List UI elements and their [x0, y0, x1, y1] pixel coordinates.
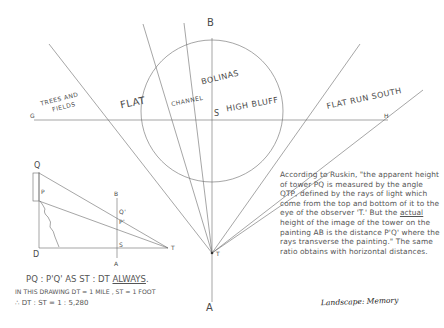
ruskin-note-emphasis: actual — [400, 208, 423, 217]
scale-statement: IN THIS DRAWING DT = 1 MILE , ST = 1 FOO… — [15, 288, 215, 295]
point-T-label: T — [216, 251, 220, 257]
ray-1 — [49, 44, 212, 253]
inset-S-label: S — [119, 242, 123, 248]
ratio-formula-emphasis: ALWAYS — [112, 274, 145, 284]
point-H-label: H — [384, 113, 389, 119]
tower-rect — [33, 173, 39, 201]
inset-ray-Q — [39, 173, 168, 248]
inset-P-prime-label: P' — [119, 219, 125, 225]
point-S-label: S — [214, 110, 220, 118]
inset-D-label: D — [33, 251, 40, 259]
inset-B-label: B — [114, 191, 119, 197]
observer-point — [211, 252, 214, 255]
ratio-formula-text: PQ : P'Q' AS ST : DT — [26, 274, 112, 284]
ray-2 — [143, 24, 212, 253]
ruskin-note: According to Ruskin, "the apparent heigh… — [280, 170, 440, 256]
ratio-formula: PQ : P'Q' AS ST : DT ALWAYS. — [26, 274, 226, 284]
inset-cliff-profile — [40, 201, 59, 247]
ratio-formula-end: . — [146, 274, 149, 284]
scale-ratio: ∴ DT : ST = 1 : 5,280 — [15, 299, 215, 307]
inset-T-label: T — [171, 245, 175, 251]
inset-Q-prime-label: Q' — [119, 209, 126, 215]
point-B-label: B — [207, 18, 214, 28]
inset-P-label: P — [41, 189, 45, 195]
ray-3 — [184, 23, 212, 253]
inset-Q-label: Q — [34, 162, 41, 170]
inset-ray-P — [39, 201, 168, 248]
point-G-label: G — [30, 113, 35, 119]
inset-A-label: A — [114, 261, 119, 267]
ruskin-note-part2: height of the image of the tower on the … — [280, 218, 440, 256]
